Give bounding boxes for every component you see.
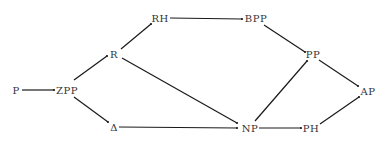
node-p: P [12,85,19,96]
edge-zpp-to-delta [74,97,108,122]
node-zpp: ZPP [56,85,78,96]
edge-zpp-to-r [74,56,107,80]
node-ph: PH [303,123,319,134]
node-np: NP [242,123,258,134]
arrow-tip-icon [53,89,55,91]
node-ap: AP [360,86,376,97]
node-bpp: BPP [245,13,267,24]
edge-r-to-np [122,58,237,123]
arrow-tip-icon [306,60,308,62]
node-r: R [110,49,118,60]
edge-ph-to-ap [320,97,359,124]
arrow-tip-icon [106,55,108,57]
edge-delta-to-np [119,127,237,128]
edges [22,18,360,129]
node-pp: PP [306,49,320,60]
edge-rh-to-bpp [170,18,242,19]
arrow-tip-icon [107,121,109,123]
edge-bpp-to-pp [264,25,305,52]
arrow-tip-icon [241,18,243,20]
node-rh: RH [151,13,168,24]
edge-r-to-rh [121,24,151,49]
nodes: PZPPRRHBPPPPAPΔNPPH [12,13,375,134]
arrow-tip-icon [357,85,359,87]
edge-np-to-pp [255,61,307,121]
node-delta: Δ [110,122,118,133]
arrow-tip-icon [236,122,238,124]
arrow-tip-icon [300,127,302,129]
arrow-tip-icon [236,127,238,129]
edge-pp-to-ap [319,60,358,86]
pathway-diagram: PZPPRRHBPPPPAPΔNPPH [0,0,385,156]
